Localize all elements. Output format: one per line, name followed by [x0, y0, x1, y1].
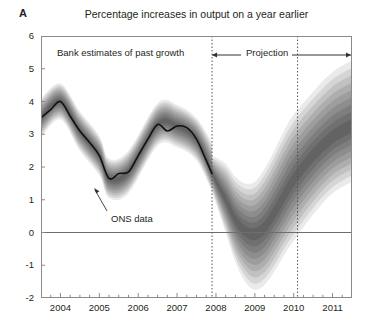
panel-letter: A [19, 7, 27, 19]
y-axis-tick-label: -2 [8, 292, 34, 303]
y-axis-tick-label: 1 [8, 194, 34, 205]
ons-data-label: ONS data [111, 213, 153, 224]
x-axis-tick-label: 2005 [81, 302, 117, 313]
x-axis-tick-label: 2010 [276, 302, 312, 313]
projection-label: Projection [242, 47, 292, 58]
plot-area [41, 36, 352, 298]
y-axis-tick-label: 5 [8, 63, 34, 74]
x-axis-tick-label: 2004 [42, 302, 78, 313]
x-axis-tick-label: 2009 [237, 302, 273, 313]
chart-title: Percentage increases in output on a year… [41, 8, 352, 20]
x-axis-tick-label: 2006 [120, 302, 156, 313]
fan-chart-figure: A Percentage increases in output on a ye… [0, 0, 375, 331]
chart-canvas [41, 36, 352, 298]
y-axis-tick-label: 4 [8, 96, 34, 107]
y-axis-tick-label: 0 [8, 227, 34, 238]
past-growth-label: Bank estimates of past growth [57, 47, 184, 58]
x-axis-tick-label: 2008 [198, 302, 234, 313]
x-axis-tick-label: 2011 [315, 302, 351, 313]
y-axis-tick-label: 3 [8, 128, 34, 139]
y-axis-tick-label: -1 [8, 259, 34, 270]
y-axis-tick-label: 2 [8, 161, 34, 172]
x-axis-tick-label: 2007 [159, 302, 195, 313]
fan-bands-group [41, 61, 352, 290]
y-axis-tick-label: 6 [8, 30, 34, 41]
